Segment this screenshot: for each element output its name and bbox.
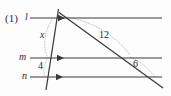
- parallel-line-n: [30, 74, 162, 80]
- direction-arrow-icon: [56, 74, 63, 80]
- segment-label-6: 6: [133, 59, 138, 69]
- line-label-n: n: [22, 71, 27, 81]
- parallel-line-m: [30, 55, 162, 61]
- line-label-m: m: [19, 52, 26, 62]
- segment-label-12: 12: [99, 30, 109, 40]
- line-label-l: l: [25, 12, 28, 22]
- segment-label-x: x: [40, 30, 44, 40]
- direction-arrow-icon: [57, 55, 64, 61]
- arc-x-icon: [45, 20, 52, 56]
- problem-number: (1): [5, 13, 18, 24]
- parallel-line-l: [30, 15, 162, 21]
- arc-group: [44, 17, 155, 77]
- arc-4-icon: [44, 59, 47, 77]
- geometry-figure: (1) l m n x 4 12 6: [0, 0, 171, 96]
- segment-label-4: 4: [38, 61, 43, 71]
